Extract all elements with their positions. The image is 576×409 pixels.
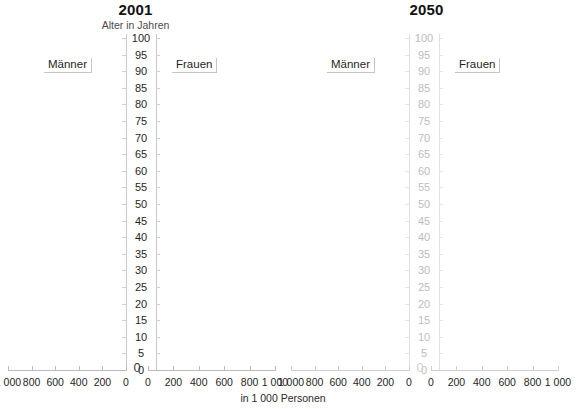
- age-tick-mark: [122, 287, 126, 288]
- age-tick-label: 65: [409, 147, 439, 161]
- age-tick-mark: [405, 337, 409, 338]
- age-tick-mark: [405, 71, 409, 72]
- age-tick-mark: [439, 237, 443, 238]
- age-tick-mark: [405, 353, 409, 354]
- age-tick-label: 25: [409, 280, 439, 294]
- age-tick-mark: [405, 304, 409, 305]
- age-tick-label: 100: [409, 31, 439, 45]
- age-tick-label: 10: [126, 330, 156, 344]
- age-tick-mark: [439, 171, 443, 172]
- x-tick-mark: [199, 366, 200, 371]
- age-tick-mark: [156, 320, 160, 321]
- x-tick-mark: [558, 366, 559, 371]
- age-tick-mark: [122, 138, 126, 139]
- age-tick-mark: [439, 254, 443, 255]
- x-tick-mark: [315, 366, 316, 371]
- age-tick-label: 80: [126, 97, 156, 111]
- age-tick-mark: [439, 270, 443, 271]
- age-tick-mark: [156, 270, 160, 271]
- age-tick-label: 20: [409, 297, 439, 311]
- age-tick-label: 90: [126, 64, 156, 78]
- age-tick-label: 30: [126, 263, 156, 277]
- age-tick-mark: [122, 171, 126, 172]
- age-tick-mark: [405, 154, 409, 155]
- age-tick-label: 60: [126, 164, 156, 178]
- age-tick-mark: [122, 221, 126, 222]
- x-tick-mark: [173, 366, 174, 371]
- age-tick-mark: [156, 38, 160, 39]
- age-tick-mark: [405, 138, 409, 139]
- legend-men-2001: Männer: [44, 58, 92, 73]
- chart-title-2001: 2001: [0, 1, 277, 18]
- age-tick-label: 95: [409, 48, 439, 62]
- age-tick-mark: [156, 71, 160, 72]
- age-tick-label: 15: [409, 313, 439, 327]
- age-tick-mark: [405, 237, 409, 238]
- x-tick-mark: [456, 366, 457, 371]
- age-tick-mark: [439, 204, 443, 205]
- age-tick-mark: [122, 320, 126, 321]
- age-tick-mark: [405, 320, 409, 321]
- x-tick-mark: [409, 366, 410, 371]
- age-tick-label: 10: [409, 330, 439, 344]
- age-tick-mark: [156, 121, 160, 122]
- age-tick-mark: [156, 104, 160, 105]
- age-tick-mark: [122, 88, 126, 89]
- x-tick-mark: [533, 366, 534, 371]
- age-tick-label: 50: [126, 197, 156, 211]
- age-tick-mark: [405, 55, 409, 56]
- age-tick-mark: [156, 204, 160, 205]
- x-tick-mark: [275, 366, 276, 371]
- age-tick-mark: [439, 104, 443, 105]
- age-tick-mark: [405, 270, 409, 271]
- age-tick-mark: [122, 187, 126, 188]
- age-tick-mark: [439, 304, 443, 305]
- age-tick-label: 95: [126, 48, 156, 62]
- x-tick-mark: [250, 366, 251, 371]
- x-tick-label: 1 000: [534, 376, 576, 389]
- x-axis-left-2001: [8, 370, 126, 371]
- age-tick-label: 40: [409, 230, 439, 244]
- x-tick-mark: [102, 366, 103, 371]
- age-tick-label: 45: [126, 214, 156, 228]
- age-tick-mark: [439, 337, 443, 338]
- age-tick-label: 5: [409, 346, 439, 360]
- x-tick-mark: [431, 366, 432, 371]
- age-tick-mark: [156, 287, 160, 288]
- age-tick-mark: [405, 204, 409, 205]
- x-tick-mark: [362, 366, 363, 371]
- plot-area-2050: 1009590858075706560555045403530252015105…: [291, 34, 558, 370]
- age-tick-mark: [122, 121, 126, 122]
- age-tick-mark: [439, 55, 443, 56]
- age-tick-mark: [122, 237, 126, 238]
- x-tick-mark: [224, 366, 225, 371]
- age-tick-label: 55: [409, 180, 439, 194]
- x-axis-right-2001: [148, 370, 275, 371]
- age-tick-mark: [439, 320, 443, 321]
- x-tick-mark: [32, 366, 33, 371]
- age-tick-mark: [405, 287, 409, 288]
- age-tick-mark: [122, 270, 126, 271]
- age-tick-mark: [405, 104, 409, 105]
- age-tick-label: 60: [409, 164, 439, 178]
- age-tick-mark: [405, 254, 409, 255]
- x-axis-left-2050: [291, 370, 409, 371]
- age-tick-label: 50: [409, 197, 439, 211]
- age-axis-2050: 1009590858075706560555045403530252015105…: [409, 34, 439, 370]
- plot-area-2001: 1009590858075706560555045403530252015105…: [8, 34, 275, 370]
- age-tick-mark: [156, 187, 160, 188]
- age-tick-label: 75: [126, 114, 156, 128]
- age-tick-label: 85: [126, 81, 156, 95]
- x-tick-mark: [8, 366, 9, 371]
- panel-2050: 2050 10095908580757065605550454035302520…: [283, 0, 566, 409]
- age-tick-mark: [122, 38, 126, 39]
- age-tick-label: 35: [409, 247, 439, 261]
- age-tick-mark: [405, 38, 409, 39]
- x-axis-right-2050: [431, 370, 558, 371]
- age-tick-mark: [405, 171, 409, 172]
- age-tick-mark: [405, 187, 409, 188]
- age-tick-mark: [122, 104, 126, 105]
- axis-center-zero-2001: 0: [126, 360, 148, 375]
- age-tick-label: 35: [126, 247, 156, 261]
- age-tick-mark: [439, 71, 443, 72]
